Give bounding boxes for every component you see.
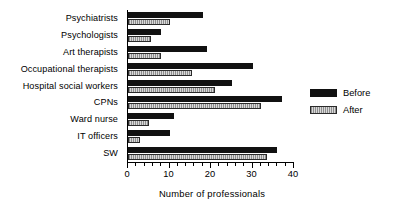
category-label: IT officers [77, 131, 118, 141]
chart-legend: Before After [310, 87, 390, 121]
x-axis-minor-tick [235, 163, 236, 166]
category-label: Psychiatrists [66, 13, 118, 23]
category-label: Art therapists [63, 47, 118, 57]
bar-before [128, 12, 203, 18]
x-axis-minor-tick [202, 163, 203, 166]
legend-label-before: Before [343, 87, 370, 99]
bar-before [128, 63, 253, 69]
bar-before [128, 130, 170, 136]
category-label: Hospital social workers [23, 81, 118, 91]
bar-after [128, 103, 261, 109]
category-label: Occupational therapists [21, 64, 118, 74]
bar-before [128, 96, 282, 102]
category-label: Psychologists [61, 30, 118, 40]
x-axis-minor-tick [243, 163, 244, 166]
bar-after [128, 120, 149, 126]
bar-after [128, 87, 215, 93]
bar-after [128, 154, 267, 160]
x-axis-minor-tick [144, 163, 145, 166]
x-axis-minor-tick [152, 163, 153, 166]
category-label: Ward nurse [70, 114, 118, 124]
x-axis-major-tick [210, 163, 211, 168]
category-axis-labels: PsychiatristsPsychologistsArt therapists… [0, 10, 122, 162]
bar-chart: PsychiatristsPsychologistsArt therapists… [0, 0, 394, 211]
legend-item-before: Before [310, 87, 390, 101]
legend-swatch-after-icon [310, 106, 337, 114]
x-axis-minor-tick [135, 163, 136, 166]
x-axis-minor-tick [285, 163, 286, 166]
x-axis-tick-label: 10 [156, 169, 182, 180]
legend-item-after: After [310, 104, 390, 118]
bar-after [128, 137, 140, 143]
bar-before [128, 46, 207, 52]
x-axis-tick-label: 20 [197, 169, 223, 180]
x-axis-major-tick [293, 163, 294, 168]
legend-label-after: After [343, 104, 363, 116]
x-axis-minor-tick [218, 163, 219, 166]
legend-swatch-before-icon [310, 89, 337, 97]
x-axis-tick-label: 40 [280, 169, 306, 180]
x-axis-minor-tick [193, 163, 194, 166]
bar-before [128, 147, 277, 153]
x-axis-major-tick [169, 163, 170, 168]
x-axis-minor-tick [177, 163, 178, 166]
x-axis-tick-label: 30 [239, 169, 265, 180]
bar-after [128, 53, 161, 59]
x-axis-minor-tick [268, 163, 269, 166]
bar-before [128, 29, 161, 35]
x-axis-minor-tick [185, 163, 186, 166]
bar-before [128, 113, 174, 119]
x-axis-major-tick [127, 163, 128, 168]
x-axis-title: Number of professionals [127, 188, 297, 199]
x-axis-minor-tick [227, 163, 228, 166]
x-axis-tick-label: 0 [114, 169, 140, 180]
x-axis-minor-tick [160, 163, 161, 166]
bar-after [128, 36, 151, 42]
bar-after [128, 19, 170, 25]
x-axis-minor-tick [276, 163, 277, 166]
bar-before [128, 80, 232, 86]
x-axis-major-tick [252, 163, 253, 168]
bar-after [128, 70, 192, 76]
category-label: SW [103, 148, 118, 158]
category-label: CPNs [94, 97, 118, 107]
x-axis-minor-tick [260, 163, 261, 166]
plot-area: 010203040 [127, 10, 293, 162]
